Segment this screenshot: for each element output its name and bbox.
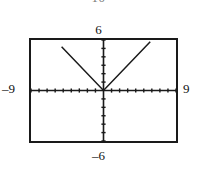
ymax-label: 6 — [0, 23, 197, 37]
absolute-value-curve — [62, 42, 151, 91]
plot-svg — [31, 40, 176, 141]
clipped-top-label: 10 — [0, 0, 197, 4]
graph-figure: 10 6 –9 9 –6 — [0, 0, 197, 172]
xmax-label: 9 — [183, 82, 190, 96]
plot-surface — [31, 40, 176, 141]
calculator-screen — [29, 38, 178, 143]
xmin-label: –9 — [2, 82, 15, 96]
ymin-label: –6 — [0, 149, 197, 163]
